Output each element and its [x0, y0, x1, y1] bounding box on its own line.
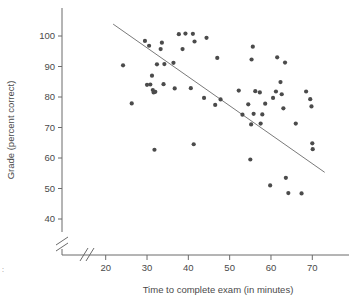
data-point: [153, 90, 157, 94]
x-tick-label: 40: [183, 262, 194, 273]
data-point: [147, 44, 151, 48]
chart-figure: 405060708090100 203040506070 Time to com…: [0, 0, 351, 302]
data-point: [171, 61, 175, 65]
data-point: [143, 39, 147, 43]
data-point: [240, 113, 244, 117]
data-point: [263, 102, 267, 106]
data-point: [218, 97, 222, 101]
data-point: [183, 31, 187, 35]
data-point: [215, 56, 219, 60]
x-tick-label: 30: [142, 262, 153, 273]
data-point: [162, 62, 166, 66]
data-point: [204, 36, 208, 40]
data-point: [173, 86, 177, 90]
data-point: [160, 41, 164, 45]
data-point: [121, 63, 125, 67]
data-point: [283, 60, 287, 64]
figure-corner-mark: :: [2, 266, 4, 273]
data-point: [275, 55, 279, 59]
data-point: [284, 176, 288, 180]
x-tick-label: 20: [100, 262, 111, 273]
data-point: [192, 39, 196, 43]
data-point: [213, 103, 217, 107]
data-point: [259, 121, 263, 125]
data-point: [177, 32, 181, 36]
y-tick-label: 70: [44, 122, 55, 133]
data-point: [309, 104, 313, 108]
data-point: [286, 191, 290, 195]
data-point: [148, 82, 152, 86]
y-tick-label: 60: [44, 152, 55, 163]
data-point: [280, 92, 284, 96]
y-tick-label: 50: [44, 183, 55, 194]
data-point: [252, 112, 256, 116]
data-point: [304, 89, 308, 93]
x-axis: 203040506070: [62, 255, 349, 273]
data-point: [150, 74, 154, 78]
data-point: [299, 191, 303, 195]
data-point: [155, 62, 159, 66]
data-point: [249, 122, 253, 126]
data-point: [260, 112, 264, 116]
x-tick-label: 50: [224, 262, 235, 273]
x-tick-label: 60: [266, 262, 277, 273]
data-point: [192, 142, 196, 146]
data-point: [130, 101, 134, 105]
data-point: [159, 47, 163, 51]
data-point: [253, 89, 257, 93]
data-point: [152, 148, 156, 152]
x-tick-label: 70: [307, 262, 318, 273]
data-point: [161, 82, 165, 86]
data-point: [258, 90, 262, 94]
data-point: [311, 147, 315, 151]
axis-break-marks: [56, 237, 94, 261]
data-point: [237, 88, 241, 92]
data-point: [251, 45, 255, 49]
data-point: [202, 96, 206, 100]
y-tick-label: 40: [44, 213, 55, 224]
data-points: [121, 31, 315, 195]
data-point: [281, 106, 285, 110]
data-point: [189, 86, 193, 90]
y-tick-label: 80: [44, 91, 55, 102]
data-point: [278, 80, 282, 84]
y-tick-label: 90: [44, 61, 55, 72]
data-point: [191, 32, 195, 36]
data-point: [308, 97, 312, 101]
data-point: [180, 47, 184, 51]
scatter-plot: 405060708090100 203040506070 Time to com…: [0, 0, 351, 302]
data-point: [246, 102, 250, 106]
data-point: [310, 141, 314, 145]
data-point: [294, 121, 298, 125]
data-point: [274, 89, 278, 93]
y-axis-title: Grade (percent correct): [5, 81, 16, 180]
y-axis: 405060708090100: [39, 8, 62, 232]
data-point: [249, 57, 253, 61]
x-axis-title: Time to complete exam (in minutes): [143, 284, 294, 295]
data-point: [268, 183, 272, 187]
data-point: [248, 157, 252, 161]
data-point: [271, 96, 275, 100]
y-tick-label: 100: [39, 30, 55, 41]
